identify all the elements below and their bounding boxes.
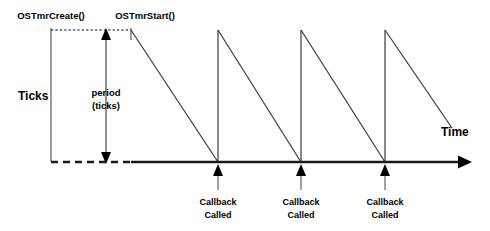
ramp-segment-4-truncated bbox=[385, 30, 452, 128]
label-time-axis: Time bbox=[441, 125, 469, 139]
callback-arrow-2 bbox=[296, 164, 306, 190]
ramp-segment-2 bbox=[218, 30, 301, 162]
callback-arrowhead bbox=[296, 164, 306, 176]
label-period-line1: period bbox=[91, 87, 120, 98]
callback-arrowhead bbox=[213, 164, 223, 176]
label-callback-1-line2: Called bbox=[204, 210, 231, 220]
label-callback-2-line1: Callback bbox=[282, 197, 320, 207]
ramp-segment-3 bbox=[301, 30, 385, 162]
label-ostmrcreate: OSTmrCreate() bbox=[17, 10, 85, 21]
label-callback-1-line1: Callback bbox=[199, 197, 237, 207]
callback-arrow-3 bbox=[380, 164, 390, 190]
label-ostmrstart: OSTmrStart() bbox=[115, 10, 175, 21]
callback-arrow-1 bbox=[213, 164, 223, 190]
time-axis-arrowhead bbox=[458, 156, 472, 169]
timer-diagram-container: OSTmrCreate() OSTmrStart() Ticks Time pe… bbox=[0, 0, 490, 231]
callback-arrowhead bbox=[380, 164, 390, 176]
timer-timing-diagram: OSTmrCreate() OSTmrStart() Ticks Time pe… bbox=[0, 0, 490, 231]
label-period-line2: (ticks) bbox=[92, 100, 120, 111]
ramp-segment-1 bbox=[131, 30, 218, 162]
label-callback-2-line2: Called bbox=[287, 210, 314, 220]
label-callback-3-line1: Callback bbox=[366, 197, 404, 207]
label-callback-3-line2: Called bbox=[371, 210, 398, 220]
label-ticks-axis: Ticks bbox=[18, 89, 49, 103]
sawtooth-waveform bbox=[131, 30, 452, 162]
